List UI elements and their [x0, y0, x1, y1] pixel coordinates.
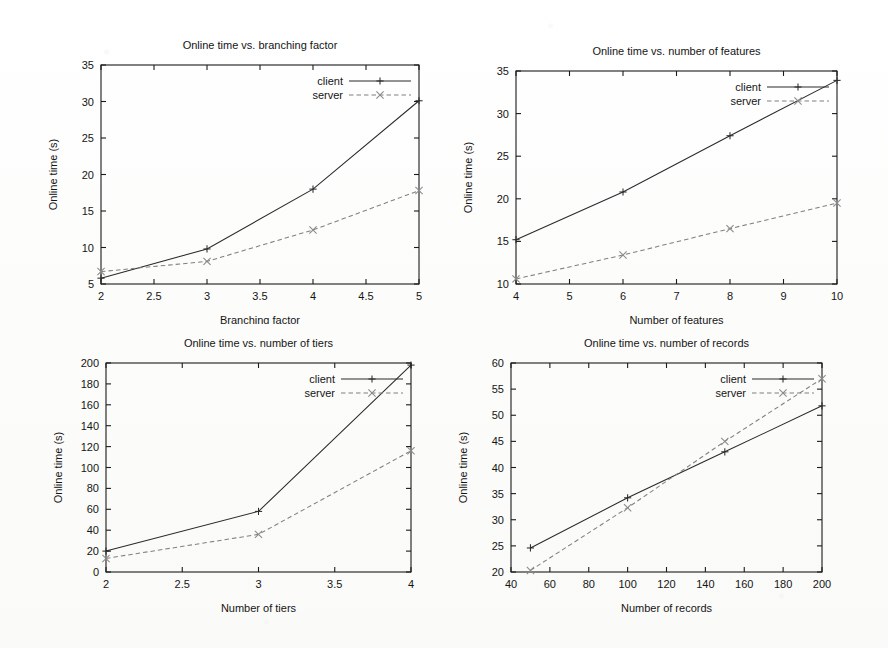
chart-panel-number-of-features: Online time vs. number of features456789… — [444, 12, 888, 324]
chart-panel-branching-factor: Online time vs. branching factor22.533.5… — [0, 12, 444, 324]
chart-title-number-of-features: Online time vs. number of features — [592, 45, 761, 57]
chart-svg-number-of-features: Online time vs. number of features456789… — [444, 12, 888, 324]
y-tick-label: 30 — [497, 108, 509, 120]
plot-frame-branching-factor — [101, 65, 419, 284]
x-tick-label: 7 — [673, 290, 679, 302]
y-tick-label: 0 — [93, 566, 99, 578]
y-tick-label: 30 — [82, 96, 94, 108]
y-tick-label: 25 — [82, 132, 94, 144]
y-tick-label: 140 — [81, 420, 99, 432]
x-tick-label: 80 — [583, 578, 595, 590]
y-tick-label: 200 — [81, 357, 99, 369]
x-tick-label: 40 — [505, 578, 517, 590]
y-tick-label: 40 — [87, 524, 99, 536]
x-axis-label-number-of-tiers: Number of tiers — [221, 602, 297, 614]
y-tick-label: 5 — [88, 278, 94, 290]
series-line-server — [101, 191, 419, 272]
y-tick-label: 50 — [492, 409, 504, 421]
x-tick-label: 2 — [103, 578, 109, 590]
series-line-client — [516, 80, 837, 239]
y-tick-label: 25 — [497, 150, 509, 162]
chart-title-number-of-records: Online time vs. number of records — [584, 337, 750, 349]
x-axis-label-number-of-records: Number of records — [621, 602, 713, 614]
x-tick-label: 10 — [831, 290, 843, 302]
x-tick-label: 5 — [566, 290, 572, 302]
y-tick-label: 20 — [87, 545, 99, 557]
y-tick-label: 10 — [497, 278, 509, 290]
y-axis-label-number-of-features: Online time (s) — [462, 142, 474, 214]
y-tick-label: 25 — [492, 540, 504, 552]
x-tick-label: 3.5 — [327, 578, 342, 590]
chart-title-number-of-tiers: Online time vs. number of tiers — [184, 337, 334, 349]
legend-label-client: client — [735, 81, 761, 93]
chart-panel-number-of-records: Online time vs. number of records4060801… — [444, 324, 888, 636]
x-tick-label: 180 — [774, 578, 792, 590]
figure-grid: Online time vs. branching factor22.533.5… — [0, 0, 888, 648]
y-tick-label: 180 — [81, 378, 99, 390]
y-tick-label: 20 — [497, 193, 509, 205]
chart-title-branching-factor: Online time vs. branching factor — [183, 39, 338, 51]
x-tick-label: 3 — [204, 290, 210, 302]
x-tick-label: 60 — [544, 578, 556, 590]
series-line-client — [530, 406, 822, 548]
y-axis-label-branching-factor: Online time (s) — [47, 139, 59, 211]
x-tick-label: 2.5 — [146, 290, 161, 302]
legend-label-client: client — [317, 75, 343, 87]
y-tick-label: 120 — [81, 441, 99, 453]
y-tick-label: 100 — [81, 462, 99, 474]
x-tick-label: 4 — [408, 578, 414, 590]
x-tick-label: 5 — [416, 290, 422, 302]
y-axis-label-number-of-records: Online time (s) — [457, 432, 469, 504]
plot-frame-number-of-features — [516, 71, 837, 284]
x-tick-label: 6 — [620, 290, 626, 302]
y-tick-label: 35 — [82, 59, 94, 71]
x-tick-label: 2.5 — [175, 578, 190, 590]
y-tick-label: 35 — [497, 65, 509, 77]
legend-label-server: server — [312, 89, 343, 101]
x-tick-label: 9 — [780, 290, 786, 302]
x-axis-label-branching-factor: Branching factor — [220, 314, 300, 324]
y-tick-label: 20 — [492, 566, 504, 578]
chart-svg-number-of-records: Online time vs. number of records4060801… — [444, 324, 888, 636]
y-axis-label-number-of-tiers: Online time (s) — [52, 432, 64, 504]
y-tick-label: 160 — [81, 399, 99, 411]
y-tick-label: 15 — [497, 235, 509, 247]
plot-frame-number-of-tiers — [106, 363, 411, 572]
y-tick-label: 30 — [492, 514, 504, 526]
y-tick-label: 10 — [82, 242, 94, 254]
x-tick-label: 200 — [813, 578, 831, 590]
y-tick-label: 15 — [82, 205, 94, 217]
chart-svg-branching-factor: Online time vs. branching factor22.533.5… — [0, 12, 444, 324]
legend-label-server: server — [715, 387, 746, 399]
x-tick-label: 160 — [735, 578, 753, 590]
x-tick-label: 4 — [310, 290, 316, 302]
x-tick-label: 4.5 — [358, 290, 373, 302]
x-tick-label: 2 — [98, 290, 104, 302]
x-tick-label: 8 — [727, 290, 733, 302]
y-tick-label: 40 — [492, 462, 504, 474]
y-tick-label: 35 — [492, 488, 504, 500]
plot-frame-number-of-records — [511, 363, 822, 572]
x-axis-label-number-of-features: Number of features — [629, 314, 724, 324]
series-line-server — [516, 203, 837, 279]
y-tick-label: 60 — [87, 503, 99, 515]
y-tick-label: 20 — [82, 169, 94, 181]
legend-label-client: client — [309, 373, 335, 385]
legend-label-client: client — [720, 373, 746, 385]
x-tick-label: 3 — [255, 578, 261, 590]
y-tick-label: 80 — [87, 482, 99, 494]
series-line-server — [530, 379, 822, 571]
chart-panel-number-of-tiers: Online time vs. number of tiers22.533.54… — [0, 324, 444, 636]
legend-label-server: server — [304, 387, 335, 399]
y-tick-label: 60 — [492, 357, 504, 369]
x-tick-label: 140 — [696, 578, 714, 590]
x-tick-label: 3.5 — [252, 290, 267, 302]
chart-svg-number-of-tiers: Online time vs. number of tiers22.533.54… — [0, 324, 444, 636]
series-line-client — [101, 101, 419, 278]
y-tick-label: 45 — [492, 435, 504, 447]
x-tick-label: 100 — [618, 578, 636, 590]
x-tick-label: 4 — [513, 290, 519, 302]
series-line-server — [106, 451, 411, 559]
legend-label-server: server — [730, 95, 761, 107]
y-tick-label: 55 — [492, 383, 504, 395]
